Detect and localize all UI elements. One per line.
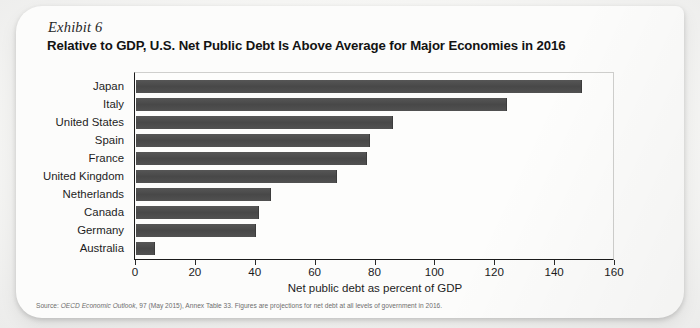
y-axis-label: Australia	[16, 239, 130, 257]
bar-row	[136, 114, 615, 132]
plot-frame	[134, 72, 614, 260]
bar-row	[136, 186, 615, 204]
x-axis-tick-label: 140	[544, 265, 563, 278]
bar-row	[136, 240, 615, 258]
bar-row	[136, 96, 615, 114]
plot-area	[134, 72, 616, 262]
bar-row	[136, 78, 615, 96]
bar	[136, 170, 337, 183]
y-axis-label: United States	[16, 113, 130, 131]
x-axis-tick-label: 120	[485, 265, 504, 278]
bar	[136, 98, 507, 111]
x-axis-tick-label: 100	[425, 265, 444, 278]
y-axis-label: Japan	[16, 77, 130, 95]
x-axis-tick-label: 20	[188, 265, 201, 278]
x-axis-tick-label: 40	[248, 265, 261, 278]
bar-row	[136, 168, 615, 186]
bar	[136, 134, 370, 147]
x-axis-tick-labels: 020406080100120140160	[134, 265, 616, 281]
bar	[136, 116, 393, 129]
x-axis-tick-label: 60	[308, 265, 321, 278]
y-axis-label: Italy	[16, 95, 130, 113]
source-note: Source: OECD Economic Outlook, 97 (May 2…	[36, 302, 442, 309]
bar	[136, 224, 256, 237]
bar-row	[136, 150, 615, 168]
x-axis-title: Net public debt as percent of GDP	[134, 282, 616, 294]
chart-title: Relative to GDP, U.S. Net Public Debt Is…	[47, 38, 565, 53]
bar-row	[136, 132, 615, 150]
source-publication: OECD Economic Outlook	[61, 302, 136, 309]
bar-row	[136, 204, 615, 222]
y-axis-label: France	[16, 149, 130, 167]
page-background: Exhibit 6 Relative to GDP, U.S. Net Publ…	[0, 0, 700, 328]
y-axis-label: United Kingdom	[16, 167, 130, 185]
source-prefix: Source:	[36, 302, 61, 309]
exhibit-label: Exhibit 6	[48, 19, 103, 36]
bar	[136, 188, 271, 201]
bar	[136, 206, 259, 219]
bar	[136, 242, 155, 255]
bar	[136, 152, 367, 165]
x-axis-tick-label: 160	[604, 265, 623, 278]
source-rest: , 97 (May 2015), Annex Table 33. Figures…	[136, 302, 443, 309]
y-axis-label: Netherlands	[16, 185, 130, 203]
x-axis-tick-label: 80	[368, 265, 381, 278]
y-axis-label: Spain	[16, 131, 130, 149]
bar-row	[136, 222, 615, 240]
y-axis-label: Canada	[16, 203, 130, 221]
x-axis-tick-label: 0	[132, 265, 138, 278]
bar-series	[136, 78, 615, 258]
y-axis-category-labels: JapanItalyUnited StatesSpainFranceUnited…	[16, 77, 130, 257]
exhibit-card: Exhibit 6 Relative to GDP, U.S. Net Publ…	[16, 6, 684, 318]
y-axis-label: Germany	[16, 221, 130, 239]
bar	[136, 80, 582, 93]
